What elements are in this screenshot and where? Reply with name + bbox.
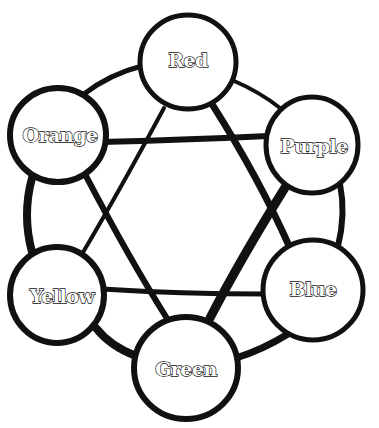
ring-edge-yellow-orange [27,178,32,252]
ring-edge-red-purple [232,80,280,108]
node-yellow: Yellow [10,247,104,343]
node-green: Green [134,317,238,419]
node-label-purple: Purple [280,135,348,157]
node-label-blue: Blue [289,278,337,300]
ring-edge-green-yellow [96,328,136,356]
node-purple: Purple [266,97,358,193]
node-label-red: Red [168,49,208,71]
ring-edge-blue-green [236,334,288,358]
ring-edge-orange-red [84,66,142,94]
node-blue: Blue [263,240,363,340]
chord-yellow-blue [102,289,266,294]
chord-orange-purple [100,136,268,142]
node-label-orange: Orange [22,124,97,146]
node-orange: Orange [10,88,106,182]
node-label-green: Green [155,358,217,380]
color-wheel-diagram: Red Purple Blue Green Yellow Orange [0,0,379,428]
node-red: Red [140,15,236,109]
node-label-yellow: Yellow [29,285,96,307]
ring-edge-purple-blue [338,184,343,246]
inner-chords [82,104,290,320]
